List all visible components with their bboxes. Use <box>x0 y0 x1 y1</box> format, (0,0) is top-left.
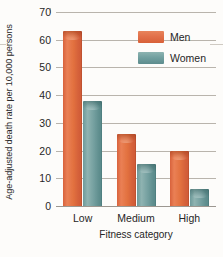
chart-legend: Men Women <box>138 28 206 70</box>
x-tick-label-medium: Medium <box>117 212 154 224</box>
scan-artifact-1 <box>210 44 223 45</box>
y-tick-label: 40 <box>39 89 51 101</box>
x-axis-title: Fitness category <box>56 229 216 240</box>
legend-swatch-men <box>138 31 164 43</box>
bar-medium-men <box>117 134 136 206</box>
bar-high-men <box>170 151 189 206</box>
gridline <box>56 12 216 13</box>
bar-medium-women <box>137 164 156 206</box>
x-tick-label-low: Low <box>73 212 92 224</box>
bar-chart: Age-adjusted death rate per 10,000 perso… <box>0 0 223 257</box>
legend-item-women: Women <box>138 49 206 67</box>
y-axis-title: Age-adjusted death rate per 10,000 perso… <box>2 2 16 222</box>
y-tick-label: 70 <box>39 6 51 18</box>
legend-label-men: Men <box>170 31 190 43</box>
scan-artifact-2 <box>0 44 6 45</box>
bar-high-women <box>190 189 209 206</box>
y-tick-label: 10 <box>39 172 51 184</box>
y-tick-label: 20 <box>39 145 51 157</box>
x-tick-label-high: High <box>179 212 201 224</box>
y-tick-label: 60 <box>39 34 51 46</box>
legend-item-men: Men <box>138 28 206 46</box>
bar-low-men <box>63 31 82 206</box>
gridline <box>56 206 216 207</box>
y-tick-label: 50 <box>39 61 51 73</box>
y-tick-label: 30 <box>39 117 51 129</box>
legend-swatch-women <box>138 52 164 64</box>
bar-low-women <box>83 101 102 206</box>
legend-label-women: Women <box>170 52 206 64</box>
y-tick-label: 0 <box>45 200 51 212</box>
